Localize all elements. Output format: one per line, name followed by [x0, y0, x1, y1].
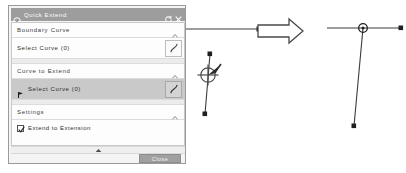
- extend-to-extension-row[interactable]: Extend to Extension: [12, 120, 184, 136]
- section-header-curve-to-extend[interactable]: Curve to Extend: [12, 64, 184, 79]
- right-arrow-icon: [258, 19, 303, 43]
- diagram-after-state: [327, 24, 403, 128]
- curve-to-extend-select-row[interactable]: Select Curve (0): [12, 79, 184, 99]
- curve-select-icon[interactable]: [165, 40, 182, 57]
- section-label: Settings: [17, 109, 171, 115]
- boundary-curve-select-row[interactable]: Select Curve (0): [12, 38, 184, 58]
- extend-operation-diagram: [186, 0, 406, 173]
- extend-to-extension-label: Extend to Extension: [28, 125, 91, 131]
- before-vertical-top-endpoint: [208, 52, 213, 57]
- boundary-curve-select-label: Select Curve (0): [17, 45, 165, 51]
- after-vertical-bottom-endpoint: [352, 124, 357, 129]
- screenshot-root: Quick Extend Boundary Curve: [0, 0, 406, 173]
- reset-circular-arrow-icon[interactable]: [164, 10, 173, 19]
- section-label: Curve to Extend: [17, 68, 171, 74]
- panel-collapse-handle[interactable]: [11, 146, 185, 154]
- curve-select-cursor-icon: [17, 85, 25, 93]
- chevron-up-icon[interactable]: [171, 108, 179, 116]
- dialog-title: Quick Extend: [24, 12, 163, 18]
- dialog-titlebar: Quick Extend: [11, 8, 185, 21]
- section-label: Boundary Curve: [17, 27, 171, 33]
- chevron-up-icon[interactable]: [171, 67, 179, 75]
- close-x-icon[interactable]: [174, 10, 183, 19]
- curve-to-extend-select-label: Select Curve (0): [28, 86, 165, 92]
- diagram-before-state: [186, 27, 262, 117]
- curve-select-icon[interactable]: [165, 81, 182, 98]
- chevron-up-icon[interactable]: [171, 26, 179, 34]
- triangle-up-icon: [94, 148, 103, 153]
- section-header-settings[interactable]: Settings: [12, 105, 184, 120]
- after-vertical-extended-line: [354, 28, 363, 126]
- dialog-footer: Close: [11, 154, 185, 163]
- extend-to-extension-checkbox[interactable]: [17, 125, 24, 132]
- after-horizontal-endpoint: [399, 26, 404, 31]
- quick-extend-dialog: Quick Extend Boundary Curve: [8, 5, 186, 164]
- dialog-body: Boundary Curve Select Curve (0) Cu: [11, 22, 185, 146]
- section-header-boundary-curve[interactable]: Boundary Curve: [12, 23, 184, 38]
- gear-icon: [13, 11, 21, 19]
- before-vertical-bottom-endpoint: [203, 112, 208, 117]
- close-button[interactable]: Close: [139, 154, 181, 163]
